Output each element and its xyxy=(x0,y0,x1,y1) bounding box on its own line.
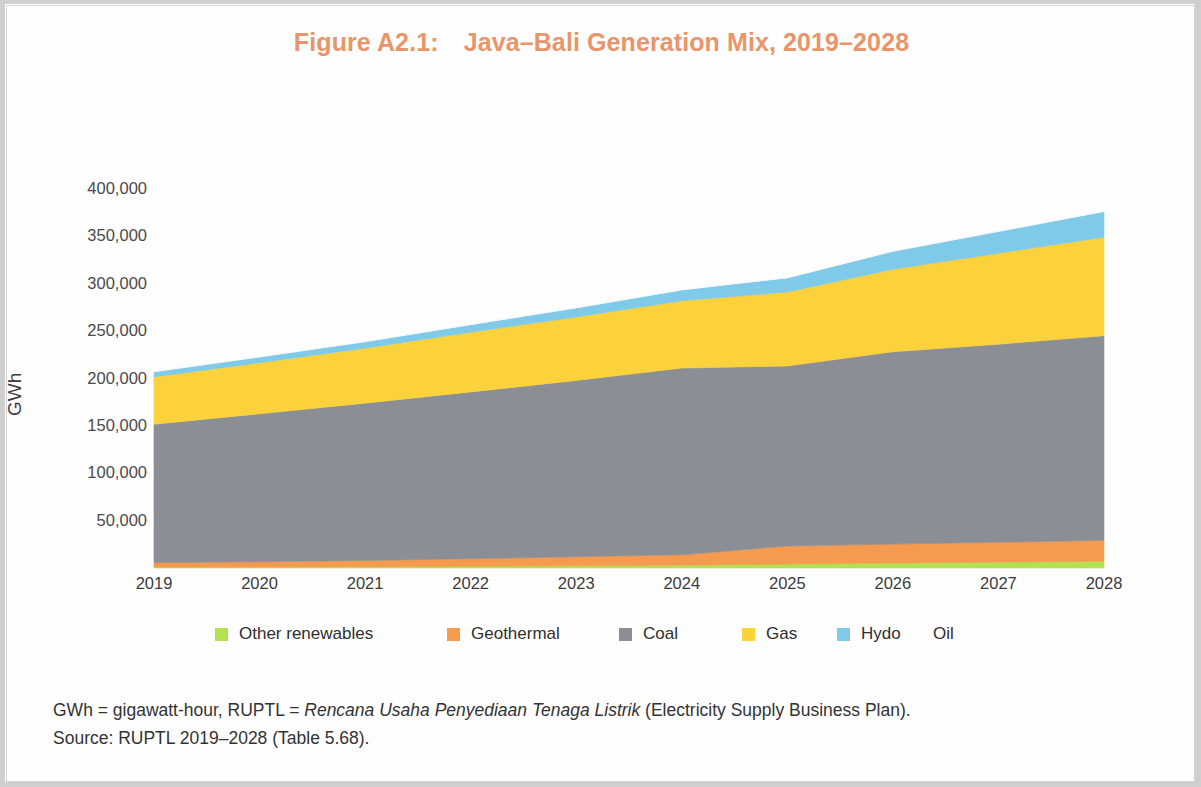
y-tick-label: 400,000 xyxy=(37,180,147,197)
x-axis-ticks: 2019202020212022202320242025202620272028 xyxy=(153,574,1105,604)
page-edge-bottom xyxy=(0,782,1201,787)
x-tick-label: 2023 xyxy=(558,574,595,593)
y-tick-label: 150,000 xyxy=(37,417,147,434)
legend-swatch-icon xyxy=(215,628,228,641)
y-tick-label: 250,000 xyxy=(37,322,147,339)
chart-area: GWh 400,000350,000300,000250,000200,0001… xyxy=(7,76,1196,606)
legend-label: Gas xyxy=(766,624,797,644)
x-tick-label: 2024 xyxy=(663,574,700,593)
legend-item-coal[interactable]: Coal xyxy=(619,624,678,644)
plot-texture-overlay xyxy=(153,76,1105,571)
x-tick-label: 2026 xyxy=(875,574,912,593)
notes-abbreviations: GWh = gigawatt-hour, RUPTL = xyxy=(53,700,304,720)
chart-legend: Other renewablesGeothermalCoalGasHydoOil xyxy=(7,614,1196,654)
y-axis-ticks: 400,000350,000300,000250,000200,000150,0… xyxy=(27,76,147,606)
figure-frame: Figure A2.1: Java–Bali Generation Mix, 2… xyxy=(6,5,1195,782)
notes-line-definitions: GWh = gigawatt-hour, RUPTL = Rencana Usa… xyxy=(53,696,1153,724)
legend-item-oil[interactable]: Oil xyxy=(922,624,954,644)
x-tick-label: 2019 xyxy=(136,574,173,593)
legend-item-geothermal[interactable]: Geothermal xyxy=(447,624,560,644)
legend-swatch-icon xyxy=(837,628,850,641)
notes-line-source: Source: RUPTL 2019–2028 (Table 5.68). xyxy=(53,724,1153,752)
legend-label: Hydo xyxy=(861,624,901,644)
x-tick-label: 2020 xyxy=(241,574,278,593)
legend-item-hydo[interactable]: Hydo xyxy=(837,624,901,644)
legend-swatch-icon xyxy=(619,628,632,641)
x-tick-label: 2025 xyxy=(769,574,806,593)
y-tick-label: 300,000 xyxy=(37,275,147,292)
legend-label: Coal xyxy=(643,624,678,644)
figure-notes: GWh = gigawatt-hour, RUPTL = Rencana Usa… xyxy=(53,696,1153,753)
legend-label: Other renewables xyxy=(239,624,373,644)
notes-ruptl-translation: (Electricity Supply Business Plan). xyxy=(640,700,910,720)
y-tick-label: 50,000 xyxy=(37,512,147,529)
x-tick-label: 2021 xyxy=(347,574,384,593)
area-chart-svg xyxy=(153,76,1105,571)
legend-swatch-icon xyxy=(447,628,460,641)
y-tick-label: 200,000 xyxy=(37,370,147,387)
legend-item-other-renewables[interactable]: Other renewables xyxy=(215,624,373,644)
legend-label: Geothermal xyxy=(471,624,560,644)
y-tick-label: 100,000 xyxy=(37,464,147,481)
stacked-area-plot xyxy=(153,76,1105,571)
legend-swatch-icon xyxy=(742,628,755,641)
figure-title: Figure A2.1: Java–Bali Generation Mix, 2… xyxy=(7,28,1196,57)
page: Figure A2.1: Java–Bali Generation Mix, 2… xyxy=(0,0,1201,787)
legend-label: Oil xyxy=(933,624,954,644)
legend-item-gas[interactable]: Gas xyxy=(742,624,797,644)
x-tick-label: 2027 xyxy=(980,574,1017,593)
y-axis-title: GWh xyxy=(4,373,26,416)
page-edge-top xyxy=(0,0,1201,4)
y-tick-label: 350,000 xyxy=(37,227,147,244)
x-tick-label: 2022 xyxy=(452,574,489,593)
x-tick-label: 2028 xyxy=(1086,574,1123,593)
notes-ruptl-italic: Rencana Usaha Penyediaan Tenaga Listrik xyxy=(304,700,640,720)
